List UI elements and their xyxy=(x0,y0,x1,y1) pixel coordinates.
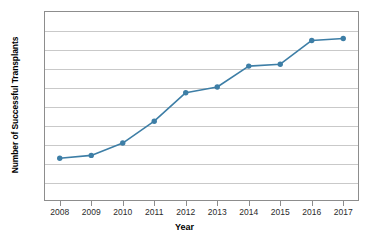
x-tick-mark xyxy=(343,201,344,206)
x-axis-title: Year xyxy=(0,222,369,232)
data-series xyxy=(44,11,359,201)
data-point xyxy=(246,63,251,68)
line-chart: Number of Successful Transplants 0204060… xyxy=(0,0,369,240)
data-point xyxy=(152,119,157,124)
data-point xyxy=(341,36,346,41)
x-tick-mark xyxy=(154,201,155,206)
x-tick-mark xyxy=(123,201,124,206)
series-markers xyxy=(57,36,346,161)
x-tick-mark xyxy=(217,201,218,206)
x-tick-mark xyxy=(91,201,92,206)
data-point xyxy=(89,153,94,158)
x-tick-mark xyxy=(186,201,187,206)
data-point xyxy=(278,62,283,67)
x-tick-mark xyxy=(249,201,250,206)
data-point xyxy=(57,156,62,161)
data-point xyxy=(215,84,220,89)
x-tick-mark xyxy=(280,201,281,206)
data-point xyxy=(183,90,188,95)
data-point xyxy=(120,140,125,145)
x-tick-mark xyxy=(312,201,313,206)
data-point xyxy=(309,38,314,43)
x-tick-label: 2017 xyxy=(323,207,363,217)
x-tick-mark xyxy=(60,201,61,206)
series-line xyxy=(60,39,344,159)
